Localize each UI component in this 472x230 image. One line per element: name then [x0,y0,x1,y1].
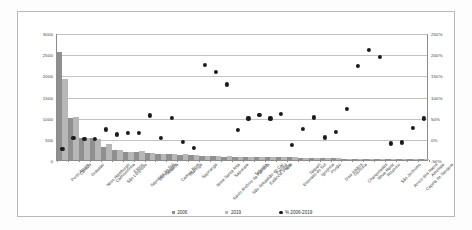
gridline [57,76,427,77]
scatter-point [301,127,305,131]
y2-axis-tick-label: 200% [431,53,443,58]
x-tick-mark [90,160,91,162]
plot-area: 050010001500200025003000 -50%0%50%100%15… [56,34,428,161]
legend-item: % 2006-2019 [279,210,312,215]
x-tick-mark [57,160,58,162]
bar-group [385,159,396,160]
x-tick-mark [210,160,211,162]
y-axis-tick-label: 3000 [43,32,53,37]
legend-square-icon [172,211,175,214]
bar-group [363,159,374,160]
x-tick-mark [112,160,113,162]
scatter-point [345,107,349,111]
chart-legend: 20062019% 2006-2019 [56,210,428,215]
bar-group [221,156,232,160]
scatter-point [148,113,152,117]
scatter-point [257,113,261,117]
bar-group [298,158,309,160]
x-tick-mark [232,160,233,162]
bar-group [320,158,331,160]
x-tick-mark [155,160,156,162]
scatter-point [367,48,371,52]
scatter-point [421,116,425,120]
bar-group [276,157,287,160]
bar-group [57,52,68,160]
bar-group [90,138,101,160]
scatter-point [137,131,141,135]
x-tick-mark [320,160,321,162]
legend-circle-icon [279,211,282,214]
gridline [57,34,427,35]
scatter-point [410,126,414,130]
bar-group [352,159,363,160]
scatter-point [400,141,404,145]
x-tick-mark [221,160,222,162]
x-tick-mark [79,160,80,162]
bar-group [188,155,199,160]
legend-square-icon [225,211,228,214]
x-axis-category-label: Sapiranga [200,162,217,179]
scatter-point [181,140,185,144]
bar-group [155,154,166,160]
bar-group [418,159,429,160]
bar-group [287,157,298,160]
y-axis-tick-label: 0 [50,159,53,164]
chart-screenshot: 050010001500200025003000 -50%0%50%100%15… [0,0,472,230]
scatter-point [356,64,360,68]
y2-axis-tick-label: 100% [431,95,443,100]
bar-group [101,144,112,160]
x-tick-mark [243,160,244,162]
y-axis-tick-label: 1000 [43,116,53,121]
y-axis-tick-label: 2000 [43,74,53,79]
gridline [57,55,427,56]
scatter-point [334,130,338,134]
x-tick-mark [134,160,135,162]
y2-axis-tick-label: 0% [431,137,438,142]
x-tick-mark [188,160,189,162]
x-axis-category-label: Gravataí [90,162,105,177]
legend-label: 2019 [231,210,241,215]
x-axis-category-label: Glorinha [353,162,368,177]
scatter-point [268,116,272,120]
scatter-point [126,131,130,135]
bar-group [254,157,265,160]
bar-group [145,153,156,160]
bar-group [265,157,276,160]
scatter-point [224,83,228,87]
legend-item: 2006 [172,210,188,215]
bar-group [341,159,352,160]
scatter-point [192,146,196,150]
scatter-point [279,112,283,116]
scatter-point [246,116,250,120]
legend-label: 2006 [177,210,187,215]
chart-frame: 050010001500200025003000 -50%0%50%100%15… [17,11,455,217]
x-tick-mark [177,160,178,162]
x-tick-mark [68,160,69,162]
legend-item: 2019 [225,210,241,215]
bar-group [79,138,90,160]
bar-group [331,158,342,160]
scatter-point [104,127,108,131]
x-tick-mark [341,160,342,162]
bar-group [232,157,243,160]
x-tick-mark [298,160,299,162]
scatter-point [203,63,207,67]
y-axis-tick-label: 500 [45,137,53,142]
scatter-point [115,133,119,137]
x-tick-mark [352,160,353,162]
bar-group [309,158,320,160]
x-tick-mark [429,160,430,162]
x-tick-mark [254,160,255,162]
y-axis-tick-label: 2500 [43,53,53,58]
bar-group [243,157,254,160]
bar-group [112,150,123,160]
bar-group [166,154,177,160]
scatter-point [378,55,382,59]
bar-group [177,154,188,160]
bar-group [407,159,418,160]
bar-group [199,156,210,160]
bar-group [396,159,407,160]
y2-axis-tick-label: 150% [431,74,443,79]
scatter-point [235,128,239,132]
bar-group [134,151,145,160]
